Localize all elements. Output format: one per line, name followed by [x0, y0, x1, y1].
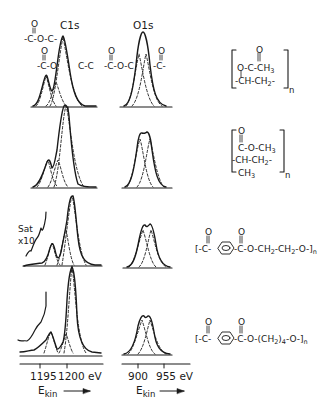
benzene-ring-icon	[218, 332, 234, 344]
pet-O: O	[205, 227, 212, 237]
pmma-O: O	[238, 126, 245, 136]
o1s-label-O: O	[108, 46, 115, 56]
sat-label: Sat	[18, 224, 33, 234]
peak-label-O: O	[31, 19, 38, 29]
benzene-ring-icon	[218, 242, 234, 254]
c1s-tick-1200: 1200 eV	[58, 370, 103, 382]
pet-O: O	[238, 227, 245, 237]
pmma-n: n	[285, 170, 290, 180]
pvac-O: O	[256, 45, 263, 55]
satellite-trace	[18, 292, 46, 341]
row3-c1s-spectrum	[23, 196, 102, 272]
pbt-formula: [-C-	[195, 334, 211, 344]
pmma-line4: CH3	[238, 168, 255, 180]
pbt-O: O	[238, 317, 245, 327]
pbt-O: O	[205, 317, 212, 327]
row3-o1s-spectrum	[123, 224, 172, 268]
pmma-line3: -CH-CH2-	[232, 155, 272, 167]
pet-formula-tail: -C-O-CH2-CH2-O-]n	[234, 244, 317, 256]
pet-formula: [-C-	[195, 244, 211, 254]
pvac-line3: -CH-CH2-	[235, 76, 275, 88]
row2-c1s-spectrum	[31, 105, 97, 188]
pmma-line2: C-O-CH3	[238, 143, 276, 155]
c1s-title: C1s	[60, 19, 79, 31]
o1s-label-ester: -C-O-C	[104, 61, 134, 71]
o1s-tick-955: 955 eV	[156, 370, 194, 382]
o1s-title: O1s	[133, 19, 153, 31]
peak-label-O: O	[41, 46, 48, 56]
sat-factor: x10	[18, 236, 35, 246]
o1s-label-carbonyl: -C-	[153, 61, 166, 71]
peak-label-ester: -C-O-C-	[24, 34, 57, 44]
peak-label-c-o: -C-O	[37, 61, 57, 71]
c1s-axis-label: Ekin	[38, 384, 57, 399]
xps-figure: C1s O1s O -C-O-C- O -C-O C-C O -C-O-C O …	[0, 0, 322, 408]
row4-c1s-spectrum	[18, 267, 102, 356]
pvac-line2: O-C-CH3	[237, 63, 274, 75]
o1s-axis-label: Ekin	[136, 384, 155, 399]
o1s-tick-900: 900	[128, 370, 148, 382]
satellite-trace	[26, 212, 46, 256]
peak-label-c-c: C-C	[78, 61, 94, 71]
pbt-formula-tail: -C-O-(CH2)4-O-]n	[234, 334, 308, 346]
o1s-label-O: O	[158, 46, 165, 56]
c1s-tick-1195: 1195	[30, 370, 57, 382]
pvac-n: n	[289, 85, 294, 95]
row4-o1s-spectrum	[122, 316, 172, 355]
row2-o1s-spectrum	[122, 132, 172, 188]
